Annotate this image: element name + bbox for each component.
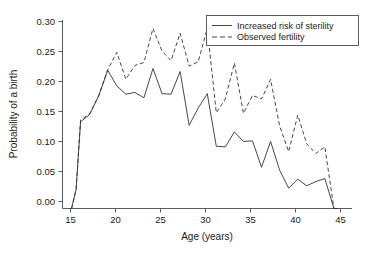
x-tick-label: 15	[65, 214, 76, 225]
legend-label-1: Observed fertility	[237, 32, 305, 42]
y-tick-labels: 0.00 0.05 0.10 0.15 0.20 0.25 0.30	[37, 16, 56, 207]
y-tick-label: 0.00	[37, 196, 56, 207]
y-tick-marks	[59, 22, 63, 202]
x-axis-title: Age (years)	[181, 231, 233, 242]
y-tick-label: 0.30	[37, 16, 56, 27]
x-tick-labels: 15 20 25 30 35 40 45	[65, 214, 346, 225]
y-axis-title: Probability of a birth	[8, 70, 19, 158]
legend-label-0: Increased risk of sterility	[237, 21, 334, 31]
line-chart: 0.00 0.05 0.10 0.15 0.20 0.25 0.30 15 20…	[0, 0, 368, 256]
y-tick-label: 0.10	[37, 136, 56, 147]
legend: Increased risk of sterility Observed fer…	[207, 16, 359, 46]
y-tick-label: 0.15	[37, 106, 56, 117]
y-tick-label: 0.25	[37, 46, 56, 57]
series-line-increased-risk-of-sterility	[72, 68, 339, 208]
axes-frame	[63, 20, 353, 209]
x-tick-label: 35	[245, 214, 256, 225]
x-tick-label: 30	[200, 214, 211, 225]
series-line-observed-fertility	[72, 28, 339, 208]
y-tick-label: 0.05	[37, 166, 56, 177]
y-tick-label: 0.20	[37, 76, 56, 87]
x-tick-label: 40	[290, 214, 301, 225]
series-group	[72, 28, 339, 208]
x-tick-label: 20	[110, 214, 121, 225]
x-tick-label: 45	[335, 214, 346, 225]
x-tick-marks	[71, 209, 341, 213]
chart-figure: 0.00 0.05 0.10 0.15 0.20 0.25 0.30 15 20…	[0, 0, 368, 256]
x-tick-label: 25	[155, 214, 166, 225]
